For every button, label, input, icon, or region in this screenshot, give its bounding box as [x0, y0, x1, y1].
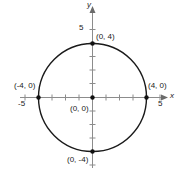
- point-label-0-4: (0, 4): [96, 33, 115, 41]
- point-marker-top: [90, 41, 94, 45]
- y-axis-label: y: [87, 1, 91, 9]
- y-tick-label-5: 5: [79, 24, 83, 32]
- point-label-0-minus4: (0, -4): [67, 156, 88, 164]
- x-tick-label-5: 5: [158, 100, 162, 108]
- point-marker-left: [36, 95, 40, 99]
- x-tick-label-minus5: -5: [18, 100, 25, 108]
- coordinate-plane-figure: y x 5 -5 5 (0, 4) (4, 0) (0, -4) (-4, 0)…: [0, 0, 180, 176]
- point-label-origin: (0, 0): [70, 105, 89, 113]
- point-label-4-0: (4, 0): [148, 82, 167, 90]
- point-marker-right: [144, 95, 148, 99]
- point-label-minus4-0: (-4, 0): [14, 82, 35, 90]
- point-marker-origin: [90, 95, 94, 99]
- point-marker-bottom: [90, 149, 94, 153]
- x-axis-label: x: [170, 92, 174, 100]
